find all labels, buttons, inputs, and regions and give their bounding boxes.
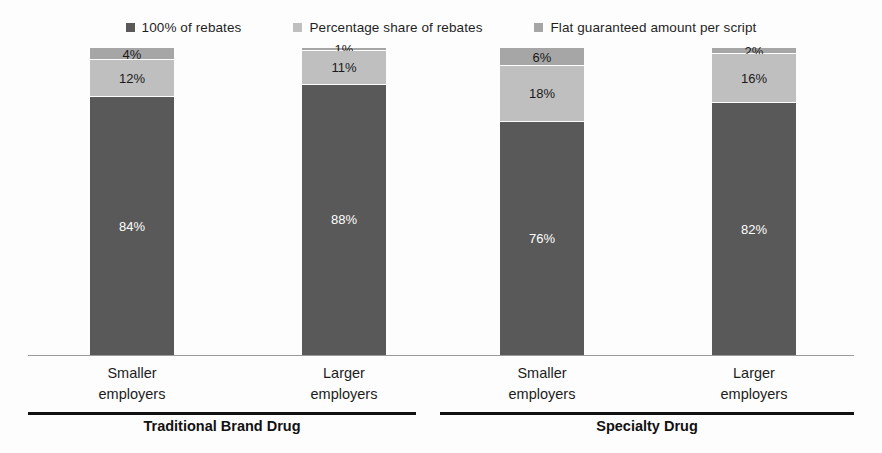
bar-segment-percentage-share: 11% bbox=[302, 51, 386, 85]
bar-segment-100-of-rebates: 76% bbox=[500, 122, 584, 355]
legend-swatch-icon bbox=[534, 23, 543, 32]
bar-segment-100-of-rebates: 84% bbox=[90, 97, 174, 355]
category-label-traditional-smaller: Smaller employers bbox=[57, 363, 207, 405]
segment-value-label: 76% bbox=[529, 232, 555, 245]
category-label-specialty-smaller: Smaller employers bbox=[467, 363, 617, 405]
group-label-specialty-drug: Specialty Drug bbox=[440, 418, 854, 434]
segment-value-label: 6% bbox=[533, 50, 552, 63]
legend-label: Flat guaranteed amount per script bbox=[550, 20, 756, 35]
legend-item-100-of-rebates: 100% of rebates bbox=[126, 20, 242, 35]
x-axis-line bbox=[28, 355, 854, 356]
legend-swatch-icon bbox=[293, 23, 302, 32]
category-labels: Smaller employers Larger employers Small… bbox=[0, 363, 882, 409]
group-divider-rule bbox=[28, 412, 416, 415]
bar-specialty-larger-employers: 2% 16% 82% bbox=[712, 48, 796, 355]
legend-swatch-icon bbox=[126, 23, 135, 32]
bar-specialty-smaller-employers: 6% 18% 76% bbox=[500, 48, 584, 355]
legend-item-percentage-share-of-rebates: Percentage share of rebates bbox=[293, 20, 482, 35]
bar-segment-flat-guaranteed: 4% bbox=[90, 48, 174, 60]
category-label-line1: Larger bbox=[679, 363, 829, 384]
group-divider-rule bbox=[440, 412, 854, 415]
bar-segment-100-of-rebates: 82% bbox=[712, 103, 796, 355]
segment-value-label: 18% bbox=[529, 87, 555, 100]
segment-value-label: 4% bbox=[123, 47, 142, 60]
category-label-traditional-larger: Larger employers bbox=[269, 363, 419, 405]
bar-traditional-smaller-employers: 4% 12% 84% bbox=[90, 48, 174, 355]
legend-label: 100% of rebates bbox=[142, 20, 242, 35]
segment-value-label: 84% bbox=[119, 220, 145, 233]
category-label-line2: employers bbox=[679, 384, 829, 405]
plot-area: 4% 12% 84% 1% 11% 88% 6% bbox=[0, 48, 882, 355]
segment-value-label: 16% bbox=[741, 72, 767, 85]
category-label-specialty-larger: Larger employers bbox=[679, 363, 829, 405]
segment-value-label: 88% bbox=[331, 213, 357, 226]
category-label-line1: Smaller bbox=[57, 363, 207, 384]
group-label-traditional-brand-drug: Traditional Brand Drug bbox=[28, 418, 416, 434]
legend-label: Percentage share of rebates bbox=[309, 20, 482, 35]
category-label-line2: employers bbox=[57, 384, 207, 405]
category-label-line2: employers bbox=[467, 384, 617, 405]
bar-segment-percentage-share: 18% bbox=[500, 66, 584, 121]
bar-segment-percentage-share: 12% bbox=[90, 60, 174, 97]
bar-traditional-larger-employers: 1% 11% 88% bbox=[302, 48, 386, 355]
stacked-bar-chart: 100% of rebates Percentage share of reba… bbox=[0, 0, 882, 453]
segment-value-label: 11% bbox=[331, 61, 356, 74]
chart-legend: 100% of rebates Percentage share of reba… bbox=[0, 14, 882, 40]
category-label-line2: employers bbox=[269, 384, 419, 405]
bar-segment-percentage-share: 16% bbox=[712, 54, 796, 103]
bar-segment-flat-guaranteed: 6% bbox=[500, 48, 584, 66]
legend-item-flat-guaranteed-amount-per-script: Flat guaranteed amount per script bbox=[534, 20, 756, 35]
category-label-line1: Larger bbox=[269, 363, 419, 384]
bar-segment-100-of-rebates: 88% bbox=[302, 85, 386, 355]
segment-value-label: 82% bbox=[741, 223, 767, 236]
category-label-line1: Smaller bbox=[467, 363, 617, 384]
segment-value-label: 12% bbox=[119, 72, 145, 85]
